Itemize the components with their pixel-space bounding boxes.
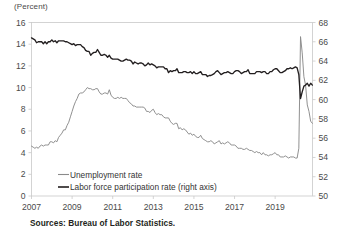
x-axis-tick-label: 2011: [103, 202, 122, 212]
y-axis-left-tick-label: 14: [16, 39, 26, 49]
x-axis-tick-label: 2009: [63, 202, 82, 212]
y-axis-left-tick-label: 8: [21, 104, 26, 114]
y-axis-right-tick-label: 50: [319, 191, 329, 201]
series-line-unemployment: [32, 37, 313, 158]
legend-label-participation: Labor force participation rate (right ax…: [70, 182, 217, 192]
chart-plot-svg: 0246810121416 50525456586062646668 20072…: [0, 0, 341, 237]
y-axis-left-tick-label: 10: [16, 83, 26, 93]
x-axis-tick-label: 2019: [266, 202, 285, 212]
y-axis-left-tick-label: 16: [16, 18, 26, 28]
x-axis-ticks: 2007200920112013201520172019: [22, 196, 285, 212]
y-axis-right-tick-label: 54: [319, 152, 329, 162]
y-axis-right-tick-label: 60: [319, 95, 329, 105]
legend-label-unemployment: Unemployment rate: [70, 170, 143, 180]
y-axis-left-tick-label: 12: [16, 61, 26, 71]
y-axis-right-tick-label: 58: [319, 114, 329, 124]
y-axis-unit-label: (Percent): [14, 2, 48, 11]
y-axis-right-ticks: 50525456586062646668: [313, 18, 329, 202]
legend-group: Unemployment rateLabor force participati…: [58, 170, 217, 193]
y-axis-right-tick-label: 64: [319, 56, 329, 66]
y-axis-left-tick-label: 0: [21, 191, 26, 201]
y-axis-left-ticks: 0246810121416: [16, 18, 32, 202]
y-axis-right-tick-label: 68: [319, 18, 329, 28]
series-line-participation: [32, 38, 313, 99]
y-axis-left-tick-label: 6: [21, 126, 26, 136]
x-axis-tick-label: 2017: [225, 202, 244, 212]
chart-figure: (Percent) 0246810121416 5052545658606264…: [0, 0, 341, 237]
x-axis-tick-label: 2015: [184, 202, 203, 212]
y-axis-left-tick-label: 2: [21, 169, 26, 179]
y-axis-right-tick-label: 62: [319, 75, 329, 85]
y-axis-right-tick-label: 52: [319, 172, 329, 182]
series-group: [32, 37, 313, 158]
y-axis-left-tick-label: 4: [21, 148, 26, 158]
source-note: Sources: Bureau of Labor Statistics.: [30, 218, 175, 228]
y-axis-right-tick-label: 66: [319, 37, 329, 47]
x-axis-tick-label: 2013: [144, 202, 163, 212]
y-axis-right-tick-label: 56: [319, 133, 329, 143]
x-axis-tick-label: 2007: [22, 202, 41, 212]
